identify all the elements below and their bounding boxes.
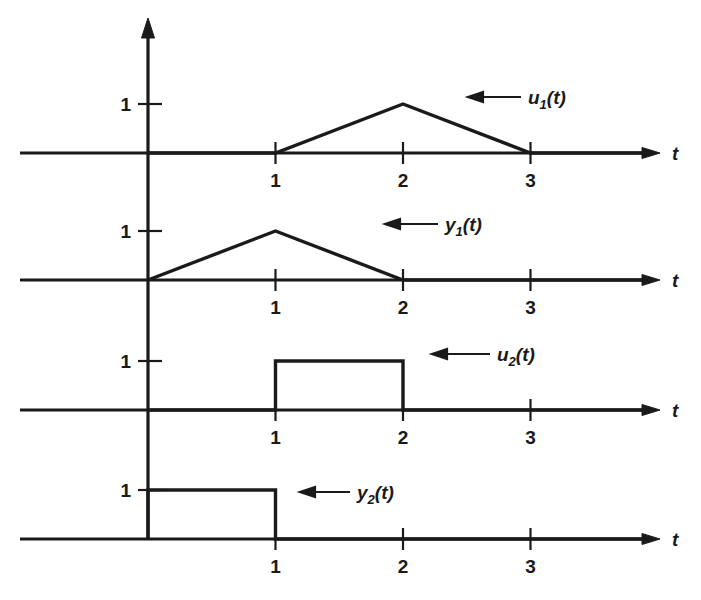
signal-plot-figure: t1123u1(t)t1123y1(t)t1123u2(t)t1123y2(t) bbox=[0, 0, 701, 600]
panel-y1-x-tick-label: 3 bbox=[525, 297, 536, 318]
panel-u1-y-tick-label: 1 bbox=[120, 94, 131, 115]
panel-u2-x-tick-label: 3 bbox=[525, 427, 536, 448]
panel-u2-y-tick-label: 1 bbox=[120, 351, 131, 372]
panel-u2-x-tick-label: 2 bbox=[398, 427, 409, 448]
panel-u2-signal-label: u2(t) bbox=[497, 344, 535, 369]
panel-u2-x-axis-label: t bbox=[672, 400, 679, 421]
panel-y1-x-axis-label: t bbox=[672, 270, 679, 291]
panel-y2-x-tick-label: 3 bbox=[525, 556, 536, 577]
panel-y2-waveform bbox=[148, 490, 645, 539]
panel-y2-x-axis-label: t bbox=[672, 529, 679, 550]
panel-y1-x-tick-label: 1 bbox=[270, 297, 281, 318]
panel-u1-x-tick-label: 1 bbox=[270, 170, 281, 191]
panel-u2-left-arrow-icon bbox=[432, 349, 447, 359]
panel-y1-x-tick-label: 2 bbox=[398, 297, 409, 318]
panel-y1-waveform bbox=[148, 231, 645, 280]
panel-y2-x-tick-label: 1 bbox=[270, 556, 281, 577]
panel-u1-x-tick-label: 2 bbox=[398, 170, 409, 191]
panel-y1-left-arrow-icon bbox=[385, 219, 400, 229]
panel-y2-left-arrow-icon bbox=[300, 487, 315, 497]
panel-u1-left-arrow-icon bbox=[468, 92, 483, 102]
panel-y1-signal-label: y1(t) bbox=[444, 214, 482, 239]
panel-y2-y-tick-label: 1 bbox=[120, 480, 131, 501]
panel-y2-signal-label: y2(t) bbox=[356, 482, 394, 507]
panel-u1-waveform bbox=[148, 104, 645, 153]
panel-u1-signal-label: u1(t) bbox=[528, 87, 566, 112]
panel-u2-waveform bbox=[148, 361, 645, 410]
signal-plot-canvas: t1123u1(t)t1123y1(t)t1123u2(t)t1123y2(t) bbox=[0, 0, 701, 600]
panel-u1-x-tick-label: 3 bbox=[525, 170, 536, 191]
panel-u1-x-axis-label: t bbox=[672, 143, 679, 164]
vertical-axis-arrowhead bbox=[142, 18, 155, 38]
panel-y1-y-tick-label: 1 bbox=[120, 221, 131, 242]
panel-u2-x-tick-label: 1 bbox=[270, 427, 281, 448]
panel-y2-x-tick-label: 2 bbox=[398, 556, 409, 577]
